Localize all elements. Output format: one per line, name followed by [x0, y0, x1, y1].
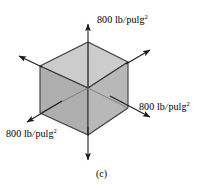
stress-exponent-right: 2	[187, 100, 190, 107]
cube-faces	[40, 42, 128, 135]
stress-unit-denominator-top: pulg	[126, 14, 144, 25]
stress-value-top: 800	[97, 14, 112, 25]
stress-unit-denominator-left: pulg	[35, 128, 53, 139]
arrow-upper-left	[19, 56, 42, 67]
stress-label-top: 800 lb/pulg2	[97, 14, 148, 25]
stress-value-right: 800	[139, 101, 154, 112]
stress-element-figure: 800 lb/pulg2 800 lb/pulg2 800 lb/pulg2 (…	[0, 0, 203, 193]
stress-label-left: 800 lb/pulg2	[6, 128, 57, 139]
cube-diagram	[0, 0, 203, 193]
figure-caption: (c)	[0, 168, 203, 179]
stress-exponent-top: 2	[145, 13, 148, 20]
arrow-upper-right	[126, 50, 150, 64]
stress-label-right: 800 lb/pulg2	[139, 101, 190, 112]
stress-exponent-left: 2	[54, 127, 57, 134]
stress-value-left: 800	[6, 128, 21, 139]
stress-unit-denominator-right: pulg	[168, 101, 186, 112]
